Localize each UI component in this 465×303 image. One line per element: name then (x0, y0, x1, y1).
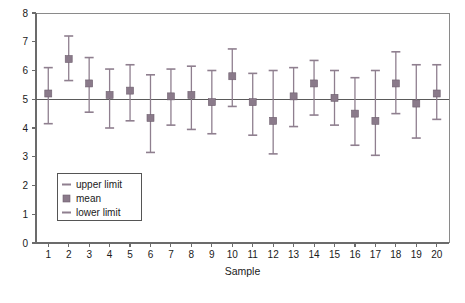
mean-marker (167, 93, 174, 100)
mean-marker (290, 93, 297, 100)
mean-marker (311, 80, 318, 87)
square-marker-icon (63, 195, 70, 202)
x-tick-label: 8 (189, 249, 195, 260)
x-tick-label: 5 (127, 249, 133, 260)
mean-marker (229, 73, 236, 80)
x-tick-label: 10 (227, 249, 239, 260)
control-chart: 012345678 123456789101112131415161718192… (0, 0, 465, 303)
legend-entry-label: mean (76, 193, 101, 204)
y-tick-label: 6 (22, 65, 28, 76)
mean-marker (351, 110, 358, 117)
x-tick-label: 15 (329, 249, 341, 260)
axis-titles: Sample (225, 265, 261, 277)
y-tick-label: 4 (22, 123, 28, 134)
mean-marker (331, 94, 338, 101)
mean-marker (106, 91, 113, 98)
x-tick-label: 19 (411, 249, 423, 260)
x-tick-label: 14 (308, 249, 320, 260)
y-tick-label: 2 (22, 180, 28, 191)
x-tick-label: 17 (370, 249, 382, 260)
y-tick-label: 5 (22, 94, 28, 105)
x-tick-label: 1 (45, 249, 51, 260)
mean-marker (270, 117, 277, 124)
mean-marker (208, 99, 215, 106)
x-tick-label: 20 (431, 249, 443, 260)
chart-legend: upper limitmeanlower limit (57, 173, 141, 220)
mean-marker (65, 56, 72, 63)
mean-marker (392, 80, 399, 87)
legend-entry-label: lower limit (76, 207, 121, 218)
y-tick-label: 1 (22, 209, 28, 220)
legend-entry-label: upper limit (76, 179, 122, 190)
x-tick-label: 4 (107, 249, 113, 260)
x-tick-label: 12 (268, 249, 280, 260)
mean-marker (45, 90, 52, 97)
x-tick-label: 13 (288, 249, 300, 260)
mean-marker (413, 100, 420, 107)
x-tick-label: 16 (349, 249, 361, 260)
chart-canvas: 012345678 123456789101112131415161718192… (0, 0, 465, 303)
x-tick-label: 18 (390, 249, 402, 260)
y-tick-label: 8 (22, 8, 28, 19)
mean-marker (86, 80, 93, 87)
mean-marker (127, 87, 134, 94)
x-tick-label: 11 (248, 249, 259, 260)
mean-marker (147, 114, 154, 121)
x-axis-title: Sample (225, 265, 261, 277)
x-tick-label: 3 (86, 249, 92, 260)
mean-marker (372, 117, 379, 124)
mean-marker (433, 90, 440, 97)
x-tick-label: 6 (148, 249, 154, 260)
mean-marker (188, 91, 195, 98)
y-tick-label: 0 (22, 238, 28, 249)
y-tick-label: 7 (22, 36, 28, 47)
mean-marker (249, 99, 256, 106)
y-tick-label: 3 (22, 151, 28, 162)
x-tick-label: 7 (168, 249, 174, 260)
x-tick-label: 9 (209, 249, 215, 260)
x-tick-label: 2 (66, 249, 72, 260)
